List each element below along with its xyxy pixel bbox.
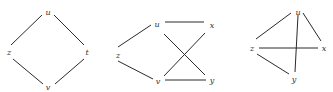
graph-edge (303, 13, 321, 41)
node-label-y: y (209, 76, 215, 85)
node-label-z: z (249, 44, 255, 53)
graph-edge (13, 59, 43, 84)
graph-edge (295, 15, 298, 72)
node-label-x: x (322, 44, 327, 53)
graph-edge (54, 15, 84, 45)
node-label-v: v (156, 77, 161, 86)
graph-1: uztv (6, 8, 90, 92)
graph-diagram-canvas: uztvuzxvyuzxy (0, 0, 333, 92)
node-label-z: z (6, 48, 12, 57)
graph-edge (118, 25, 151, 47)
node-label-y: y (291, 75, 297, 84)
graph-edge (55, 59, 84, 84)
graph-edge (256, 13, 291, 39)
node-label-u: u (295, 8, 300, 17)
node-label-z: z (115, 51, 121, 60)
node-label-u: u (154, 20, 159, 29)
node-label-t: t (85, 48, 89, 57)
graph-edge (257, 54, 289, 74)
node-label-x: x (210, 21, 215, 30)
graph-3: uzxy (249, 8, 327, 84)
node-label-v: v (46, 83, 51, 92)
graph-2: uzxvy (115, 20, 215, 86)
graph-edge (118, 61, 153, 79)
graph-edge (11, 15, 42, 45)
node-label-u: u (45, 8, 50, 17)
